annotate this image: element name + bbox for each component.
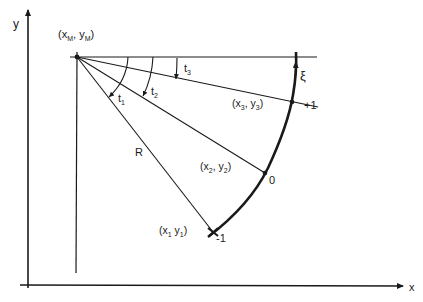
y-axis-label: y bbox=[13, 17, 19, 31]
point-label-x2: (x2, y2) bbox=[200, 160, 231, 174]
arc-geometry-diagram: y x (xM, yM) t1 t2 t3 R (x3, y3) (x2, y2… bbox=[0, 0, 423, 302]
point-label-x3: (x3, y3) bbox=[232, 97, 263, 111]
point-x2-marker bbox=[263, 171, 268, 176]
center-point bbox=[75, 55, 80, 60]
point-label-x1: (x1 y1) bbox=[159, 224, 187, 238]
param-label-minus1: -1 bbox=[216, 232, 226, 244]
arc-parameter-label: ξ bbox=[300, 68, 306, 83]
angle-arc-t3 bbox=[176, 58, 177, 79]
arc-curve bbox=[208, 52, 296, 237]
vertical-reference-line bbox=[76, 52, 77, 273]
angle-arc-t1 bbox=[109, 57, 128, 97]
x-axis-label: x bbox=[409, 281, 415, 293]
angle-label-t2: t2 bbox=[151, 85, 158, 99]
param-label-plus1: +1 bbox=[304, 99, 317, 111]
radius-line-2 bbox=[77, 57, 265, 173]
point-x3-marker bbox=[290, 100, 295, 105]
center-label: (xM, yM) bbox=[58, 28, 94, 42]
param-label-zero: 0 bbox=[269, 174, 275, 186]
radius-line-3 bbox=[77, 57, 318, 107]
angle-label-t3: t3 bbox=[184, 62, 191, 76]
x-axis bbox=[20, 285, 403, 286]
xi-arrow bbox=[295, 62, 296, 82]
radius-label: R bbox=[135, 146, 143, 158]
radius-line-1 bbox=[77, 57, 213, 232]
angle-label-t1: t1 bbox=[118, 92, 125, 106]
